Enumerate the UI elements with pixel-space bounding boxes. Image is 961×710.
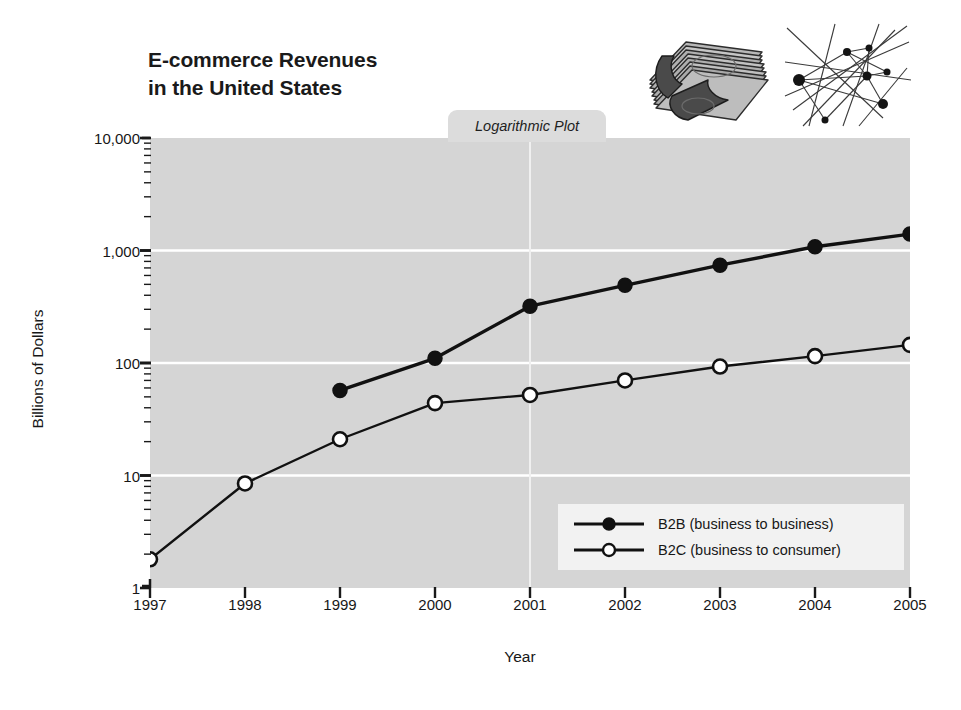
x-axis-title: Year bbox=[420, 648, 620, 666]
legend-label: B2B (business to business) bbox=[658, 516, 834, 532]
money-stack-illustration bbox=[638, 22, 773, 130]
data-point bbox=[333, 432, 347, 446]
data-point bbox=[523, 388, 537, 402]
legend-item: B2B (business to business) bbox=[558, 511, 904, 537]
data-point bbox=[808, 349, 822, 363]
x-axis-tick-marks bbox=[140, 586, 930, 600]
axis-corner-marks bbox=[138, 130, 154, 592]
legend-label: B2C (business to consumer) bbox=[658, 542, 841, 558]
y-axis-title: Billions of Dollars bbox=[29, 269, 47, 469]
legend: B2B (business to business)B2C (business … bbox=[558, 504, 904, 570]
data-point bbox=[238, 476, 252, 490]
data-point bbox=[333, 383, 347, 397]
y-tick-label: 1,000 bbox=[102, 242, 140, 259]
legend-open-circle-icon bbox=[572, 541, 646, 559]
y-tick-label: 100 bbox=[115, 355, 140, 372]
data-point bbox=[618, 373, 632, 387]
y-tick-label: 10,000 bbox=[94, 130, 140, 147]
data-point bbox=[713, 360, 727, 374]
legend-filled-circle-icon bbox=[572, 515, 646, 533]
logarithmic-plot-tab: Logarithmic Plot bbox=[448, 110, 606, 142]
data-point bbox=[713, 258, 727, 272]
data-point bbox=[903, 338, 910, 352]
page-title: E-commerce Revenues in the United States bbox=[148, 46, 508, 101]
data-point bbox=[428, 396, 442, 410]
data-point bbox=[903, 227, 910, 241]
data-point bbox=[428, 351, 442, 365]
data-point bbox=[523, 299, 537, 313]
chart-figure: E-commerce Revenues in the United States bbox=[0, 0, 961, 710]
data-point bbox=[808, 240, 822, 254]
legend-item: B2C (business to consumer) bbox=[558, 537, 904, 563]
network-diagram-illustration bbox=[783, 22, 913, 130]
data-point bbox=[618, 278, 632, 292]
